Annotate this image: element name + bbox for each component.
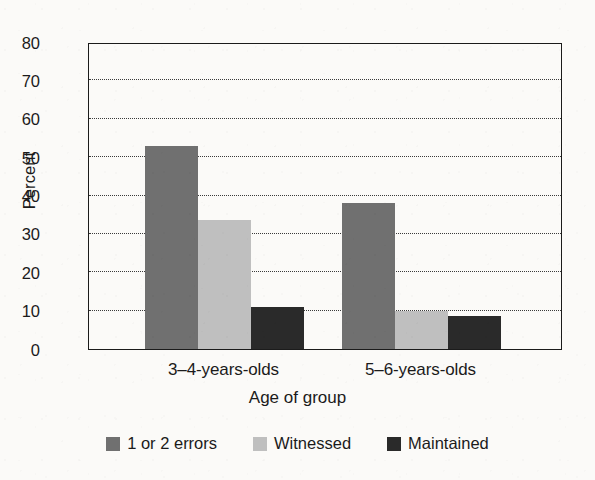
y-tick-label-70: 70 <box>0 73 40 90</box>
y-tick-label-10: 10 <box>0 303 40 320</box>
bar <box>145 146 198 349</box>
bar-chart-figure: 01020304050607080 Percent 3–4-years-olds… <box>0 0 595 480</box>
legend-item: Maintained <box>387 434 489 453</box>
legend-swatch-icon <box>253 437 267 451</box>
legend-item-label: Witnessed <box>274 434 351 453</box>
gridline-70 <box>89 79 561 80</box>
bar <box>342 203 395 349</box>
bar <box>251 307 304 349</box>
legend-item: 1 or 2 errors <box>106 434 217 453</box>
y-axis-title: Percent <box>20 121 39 241</box>
y-tick-label-0: 0 <box>0 342 40 359</box>
x-tick-label-2: 5–6-years-olds <box>306 360 536 380</box>
legend-swatch-icon <box>387 437 401 451</box>
x-tick-label-1: 3–4-years-olds <box>109 360 339 380</box>
bar <box>198 220 251 349</box>
y-tick-label-80: 80 <box>0 35 40 52</box>
chart-legend: 1 or 2 errorsWitnessedMaintained <box>0 434 595 453</box>
bar <box>395 311 448 349</box>
gridline-60 <box>89 118 561 119</box>
legend-item: Witnessed <box>253 434 351 453</box>
y-tick-label-20: 20 <box>0 265 40 282</box>
x-axis-title: Age of group <box>0 388 595 408</box>
legend-swatch-icon <box>106 437 120 451</box>
bar <box>448 316 501 349</box>
legend-item-label: 1 or 2 errors <box>127 434 217 453</box>
plot-area <box>88 43 562 350</box>
legend-item-label: Maintained <box>408 434 489 453</box>
